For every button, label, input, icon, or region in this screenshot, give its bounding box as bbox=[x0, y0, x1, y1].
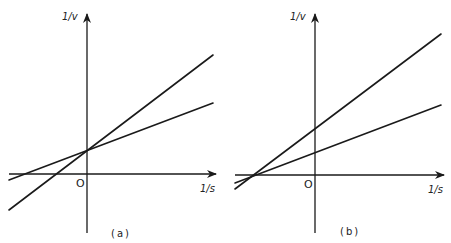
panel-a: 1/v 1/s O (a) bbox=[9, 11, 216, 239]
y-axis-label-a: 1/v bbox=[62, 11, 79, 22]
line-steep-b bbox=[235, 34, 441, 189]
panel-b: 1/v 1/s O (b) bbox=[235, 11, 444, 237]
line-steep-a bbox=[9, 55, 213, 210]
diagram-canvas: 1/v 1/s O (a) 1/v 1/s O (b) bbox=[0, 0, 451, 243]
origin-label-a: O bbox=[76, 177, 85, 190]
x-axis-label-b: 1/s bbox=[428, 184, 443, 195]
line-shallow-a bbox=[9, 103, 213, 180]
line-shallow-b bbox=[235, 105, 441, 183]
x-axis-label-a: 1/s bbox=[200, 183, 215, 194]
caption-b: (b) bbox=[340, 226, 360, 237]
origin-label-b: O bbox=[304, 178, 313, 191]
y-axis-label-b: 1/v bbox=[290, 11, 307, 22]
caption-a: (a) bbox=[111, 228, 131, 239]
